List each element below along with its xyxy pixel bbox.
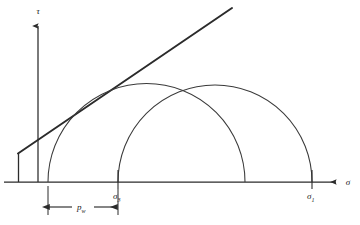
pore-pressure-label-subscript: w [82,208,86,214]
sigma-3-label: σ3 [113,191,120,203]
failure-envelope-line [18,8,232,154]
sigma-1-label-subscript: 1 [311,197,314,203]
mohr-diagram-canvas: τ σ σ3 σ1 pw [0,0,360,225]
sigma-axis-label: σ [346,177,351,187]
sigma-3-label-subscript: 3 [116,197,120,203]
mohr-circle-figure: τ σ σ3 σ1 pw [0,0,360,225]
pore-pressure-label: pw [76,202,86,214]
mohr-circle-total [118,85,312,182]
mohr-circle-effective [48,84,245,183]
sigma-1-label: σ1 [307,191,314,203]
tau-axis-label: τ [36,6,40,16]
